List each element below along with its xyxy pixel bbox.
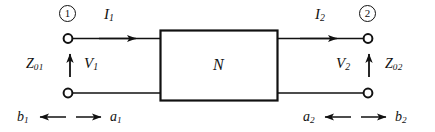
wave-symbol-a2: a: [303, 109, 310, 124]
voltage-subscript-v2: 2: [345, 61, 350, 72]
voltage-symbol-v1: V: [84, 55, 93, 71]
wave-subscript-b1: 1: [24, 115, 29, 125]
impedance-label-z02: Z02: [385, 57, 403, 73]
port-number-2: 2: [359, 5, 376, 22]
wave-label-a2: a2: [303, 110, 315, 126]
network-box-label: N: [213, 57, 224, 73]
current-label-i2: I2: [315, 7, 325, 23]
voltage-symbol-v2: V: [336, 55, 345, 71]
wave-symbol-b1: b: [17, 109, 24, 124]
wave-subscript-a1: 1: [117, 115, 122, 125]
two-port-network-figure: 1 2 I1 I2 Z01 Z02 V1 V2 N b1 a1 a2 b2: [0, 0, 435, 132]
wave-subscript-a2: 2: [310, 115, 315, 125]
wave-subscript-b2: 2: [402, 115, 407, 125]
wave-symbol-a1: a: [110, 109, 117, 124]
current-subscript-i1: 1: [109, 12, 114, 23]
terminal-node-bottom-right: [364, 89, 373, 98]
voltage-label-v2: V2: [336, 56, 350, 72]
port-number-1: 1: [59, 5, 76, 22]
impedance-label-z01: Z01: [26, 57, 44, 73]
impedance-symbol-z01: Z: [26, 56, 34, 71]
wave-label-b2: b2: [395, 110, 407, 126]
voltage-label-v1: V1: [84, 56, 98, 72]
wave-label-b1: b1: [17, 110, 29, 126]
impedance-symbol-z02: Z: [385, 56, 393, 71]
wave-symbol-b2: b: [395, 109, 402, 124]
voltage-subscript-v1: 1: [93, 61, 98, 72]
impedance-subscript-z01: 01: [34, 62, 44, 72]
terminal-node-top-left: [64, 34, 73, 43]
impedance-subscript-z02: 02: [393, 62, 403, 72]
current-label-i1: I1: [104, 7, 114, 23]
terminal-node-top-right: [364, 34, 373, 43]
terminal-node-bottom-left: [64, 89, 73, 98]
current-subscript-i2: 2: [320, 12, 325, 23]
wave-label-a1: a1: [110, 110, 122, 126]
